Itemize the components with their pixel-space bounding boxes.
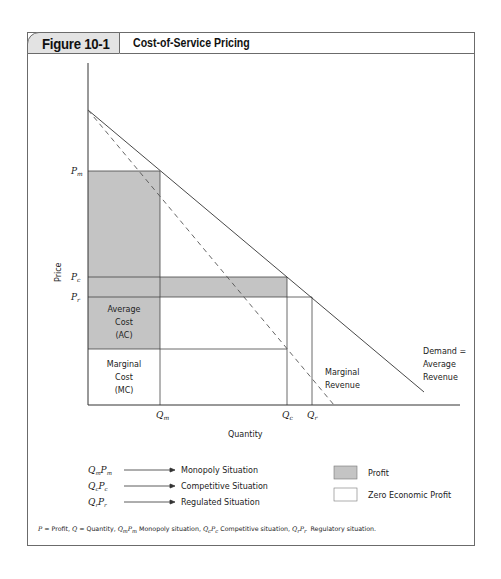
svg-text:QmPm: QmPm — [88, 465, 112, 476]
ac-label-line2: Cost — [115, 318, 133, 327]
ac-label-line1: Average — [108, 305, 141, 314]
x-axis-title: Quantity — [228, 430, 263, 439]
mr-label-line1: Marginal — [325, 368, 359, 377]
qr-label: Qr — [307, 410, 318, 421]
pc-label: Pc — [70, 272, 81, 283]
demand-label-line2: Average — [423, 360, 456, 369]
ac-label-line3: (AC) — [115, 331, 132, 340]
legend-regulated: Regulated Situation — [181, 498, 260, 507]
svg-text:QrPr: QrPr — [88, 497, 107, 508]
pr-label: Pr — [70, 292, 81, 303]
profit-region-competitive — [88, 277, 287, 297]
demand-label-line1: Demand = — [423, 347, 466, 356]
chart: Pm Pc Pr Qm Qc Qr Price Quantity Average… — [0, 0, 501, 579]
legend-profit-label: Profit — [368, 469, 389, 478]
legend-zero-profit-label: Zero Economic Profit — [368, 491, 451, 500]
profit-region-monopoly — [88, 171, 160, 277]
legend-monopoly: Monopoly Situation — [181, 466, 258, 475]
mc-label-line1: Marginal — [107, 360, 141, 369]
mc-label-line3: (MC) — [115, 386, 134, 395]
pm-label: Pm — [70, 166, 83, 177]
legend-situations: QmPm QcPc QrPr Monopoly Situation Compet… — [88, 465, 268, 508]
legend-competitive: Competitive Situation — [181, 482, 268, 491]
svg-text:QcPc: QcPc — [88, 481, 108, 492]
legend-zero-profit-swatch — [334, 488, 357, 501]
legend-profit-swatch — [334, 466, 357, 479]
mr-label-line2: Revenue — [325, 381, 360, 390]
y-axis-title: Price — [54, 262, 63, 282]
qm-label: Qm — [156, 410, 169, 421]
demand-label-line3: Revenue — [423, 373, 458, 382]
footnote: P = Profit, Q = Quantity, QmPm Monopoly … — [38, 525, 376, 534]
mc-label-line2: Cost — [115, 373, 133, 382]
qc-label: Qc — [282, 410, 293, 421]
